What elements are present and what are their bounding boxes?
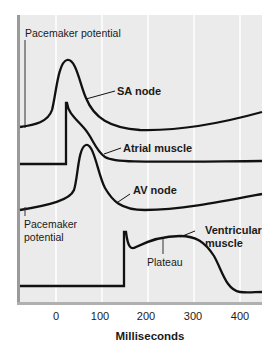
x-axis-ticks: 0 100 200 300 400 — [53, 310, 249, 322]
cardiac-action-potentials-figure: Pacemaker potential SA node Atrial muscl… — [0, 0, 272, 348]
pacemaker-potential-bottom-label-line2: potential — [24, 231, 64, 243]
plot-panel — [17, 15, 262, 305]
sa-node-label: SA node — [117, 85, 161, 97]
ventricular-muscle-label-line1: Ventricular — [205, 224, 263, 236]
x-tick-400: 400 — [231, 310, 249, 322]
x-tick-300: 300 — [184, 310, 202, 322]
panel-left-edge — [17, 15, 20, 305]
atrial-muscle-label: Atrial muscle — [123, 142, 192, 154]
x-tick-200: 200 — [137, 310, 155, 322]
plateau-label: Plateau — [147, 256, 183, 268]
x-axis-label: Milliseconds — [115, 330, 184, 342]
pacemaker-potential-top-label: Pacemaker potential — [25, 27, 121, 39]
panel-bottom-edge — [17, 302, 262, 305]
ventricular-muscle-label-line2: muscle — [205, 237, 243, 249]
x-tick-100: 100 — [91, 310, 109, 322]
x-tick-0: 0 — [53, 310, 59, 322]
av-node-label: AV node — [133, 184, 177, 196]
pacemaker-potential-bottom-label-line1: Pacemaker — [24, 218, 78, 230]
